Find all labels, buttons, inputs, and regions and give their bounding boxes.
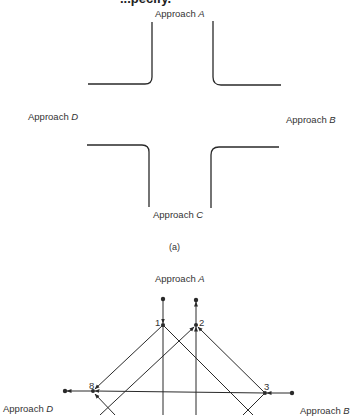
panel-a-curbs xyxy=(87,21,281,208)
curb-top-left xyxy=(88,22,152,84)
panel-b-conflict-lines xyxy=(67,299,292,415)
panel-b-nodes xyxy=(63,297,294,395)
curb-bottom-left xyxy=(87,145,149,207)
curb-top-right xyxy=(213,21,281,85)
curb-bottom-right xyxy=(211,147,279,208)
